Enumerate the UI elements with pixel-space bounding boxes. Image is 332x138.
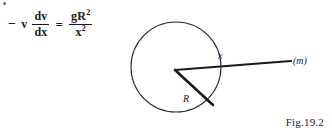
mass-label: (m) [293, 55, 308, 67]
radius-label: R [182, 93, 189, 104]
distance-label: x [217, 50, 223, 61]
radius-line [175, 70, 213, 105]
figure-caption: Fig.19.2 [286, 116, 324, 128]
geometry-diagram: R x (m) [0, 0, 332, 138]
figure-page: − v dv dx = gR2 x2 R x (m) Fig.19.2 [0, 0, 332, 138]
distance-line [175, 61, 291, 70]
